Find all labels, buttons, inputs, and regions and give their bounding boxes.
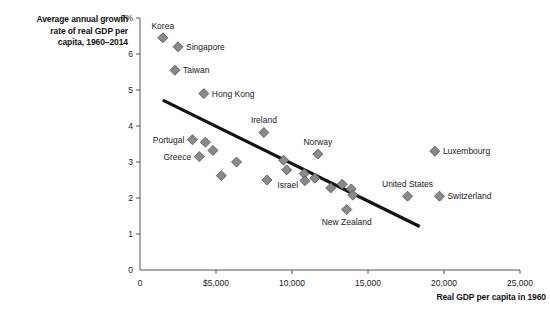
point-label-portugal: Portugal: [153, 135, 185, 145]
point-label-luxembourg: Luxembourg: [443, 146, 491, 156]
data-point-marker: [170, 65, 180, 75]
data-point-marker: [232, 157, 242, 167]
data-point-marker: [173, 42, 183, 52]
data-point-marker: [300, 176, 310, 186]
x-tick-label: 15,000: [355, 278, 381, 288]
data-point-marker: [194, 152, 204, 162]
point-label-united-states: United States: [382, 179, 433, 189]
data-point-marker: [342, 205, 352, 215]
point-label-singapore: Singapore: [186, 42, 225, 52]
x-tick-label: 25,000: [507, 278, 533, 288]
point-label-new-zealand: New Zealand: [322, 217, 372, 227]
point-label-ireland: Ireland: [251, 115, 277, 125]
y-tick-label: 3: [128, 157, 133, 167]
trendline-layer: [163, 100, 420, 226]
point-label-hong-kong: Hong Kong: [212, 89, 255, 99]
y-tick-label: 7%: [121, 13, 134, 23]
point-label-israel: Israel: [277, 180, 298, 190]
point-label-switzerland: Switzerland: [447, 191, 491, 201]
y-tick-label: 0: [128, 265, 133, 275]
chart-figure: Average annual growth rate of real GDP p…: [0, 0, 550, 319]
y-tick-label: 2: [128, 193, 133, 203]
point-label-greece: Greece: [163, 152, 191, 162]
y-tick-label: 6: [128, 49, 133, 59]
y-tick-label: 1: [128, 229, 133, 239]
x-tick-label: 0: [138, 278, 143, 288]
scatter-plot-canvas: 01234567%0$5,00010,00015,00020,00025,000…: [0, 0, 550, 319]
data-point-marker: [199, 89, 209, 99]
point-label-taiwan: Taiwan: [183, 65, 210, 75]
data-point-marker: [262, 175, 272, 185]
x-tick-label: $5,000: [203, 278, 229, 288]
data-point-marker: [158, 33, 168, 43]
data-point-marker: [216, 171, 226, 181]
data-point-marker: [313, 149, 323, 159]
data-point-marker: [200, 137, 210, 147]
x-tick-label: 20,000: [431, 278, 457, 288]
data-point-marker: [208, 145, 218, 155]
data-point-marker: [430, 146, 440, 156]
data-point-marker: [434, 191, 444, 201]
data-point-marker: [282, 165, 292, 175]
data-point-marker: [187, 135, 197, 145]
point-label-korea: Korea: [151, 21, 174, 31]
y-tick-label: 4: [128, 121, 133, 131]
y-tick-label: 5: [128, 85, 133, 95]
data-point-marker: [403, 191, 413, 201]
x-tick-label: 10,000: [279, 278, 305, 288]
trend-line: [163, 100, 420, 226]
point-label-norway: Norway: [303, 137, 333, 147]
data-point-marker: [259, 127, 269, 137]
